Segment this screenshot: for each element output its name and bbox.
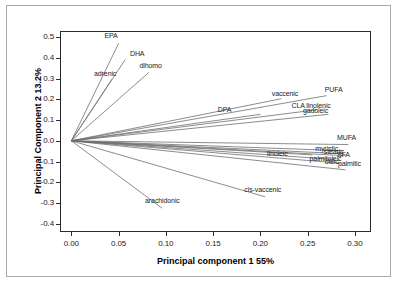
y-tick-mark bbox=[56, 120, 60, 121]
loading-vector bbox=[71, 43, 118, 140]
loading-vector bbox=[71, 110, 317, 141]
x-tick-mark bbox=[355, 232, 356, 236]
x-tick-mark bbox=[119, 232, 120, 236]
y-tick-mark bbox=[56, 182, 60, 183]
y-tick-mark bbox=[56, 58, 60, 59]
loading-vectors bbox=[60, 31, 371, 232]
y-tick-mark bbox=[56, 79, 60, 80]
y-tick-mark bbox=[56, 37, 60, 38]
x-tick-mark bbox=[308, 232, 309, 236]
x-tick-mark bbox=[260, 232, 261, 236]
x-tick-label: 0.15 bbox=[197, 239, 229, 248]
point-label: palmitic bbox=[338, 160, 361, 168]
point-label: arachidonic bbox=[145, 197, 180, 205]
x-tick-label: 0.00 bbox=[55, 239, 87, 248]
y-tick-mark bbox=[56, 99, 60, 100]
x-axis-title: Principal component 1 55% bbox=[60, 256, 371, 266]
y-tick-mark bbox=[56, 203, 60, 204]
point-label: MUFA bbox=[337, 134, 356, 142]
x-tick-label: 0.20 bbox=[244, 239, 276, 248]
loading-vector bbox=[71, 114, 260, 141]
point-label: cis-vaccenic bbox=[244, 186, 281, 194]
x-tick-label: 0.30 bbox=[339, 239, 371, 248]
point-label: DHA bbox=[130, 50, 144, 58]
y-tick-mark bbox=[56, 162, 60, 163]
x-tick-mark bbox=[71, 232, 72, 236]
point-label: DPA bbox=[218, 106, 232, 114]
point-label: dihomo bbox=[139, 62, 161, 70]
x-tick-mark bbox=[166, 232, 167, 236]
pca-loading-plot-figure: 0.50.40.30.20.10.0-0.1-0.2-0.3-0.4 0.000… bbox=[0, 0, 399, 284]
loading-vector bbox=[71, 141, 345, 170]
point-label: gadoleic bbox=[303, 107, 328, 115]
point-label: vaccenic bbox=[272, 90, 298, 98]
point-label: oleic bbox=[325, 158, 339, 166]
x-tick-mark bbox=[213, 232, 214, 236]
point-label: PUFA bbox=[325, 86, 343, 94]
y-tick-mark bbox=[56, 224, 60, 225]
point-label: EPA bbox=[104, 32, 117, 40]
x-tick-label: 0.10 bbox=[150, 239, 182, 248]
loading-vector bbox=[71, 99, 281, 141]
y-tick-mark bbox=[56, 141, 60, 142]
point-label: linoleic bbox=[267, 150, 288, 158]
x-tick-label: 0.05 bbox=[103, 239, 135, 248]
x-tick-label: 0.25 bbox=[292, 239, 324, 248]
y-axis-title: Principal Component 2 13.2% bbox=[33, 31, 43, 231]
point-label: adrenic bbox=[94, 70, 116, 78]
